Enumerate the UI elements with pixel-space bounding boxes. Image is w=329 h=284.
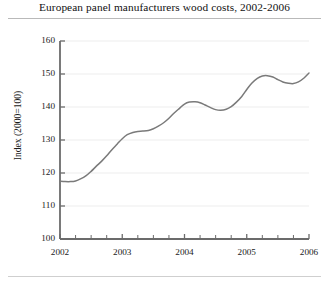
x-tick-label: 2002 — [40, 247, 80, 257]
y-tick-label: 120 — [21, 167, 55, 177]
y-tick-label: 110 — [21, 200, 55, 210]
y-tick-label: 150 — [21, 68, 55, 78]
y-tick-label: 140 — [21, 101, 55, 111]
x-tick-label: 2005 — [227, 247, 267, 257]
data-line-wood-cost-index — [60, 73, 309, 182]
gridlines — [60, 41, 309, 206]
chart-figure: European panel manufacturers wood costs,… — [0, 0, 329, 284]
x-tick-label: 2004 — [165, 247, 205, 257]
y-axis-title: Index (2000=100) — [12, 66, 23, 186]
y-tick-label: 100 — [21, 233, 55, 243]
x-tick-label: 2003 — [102, 247, 142, 257]
y-tick-label: 160 — [21, 35, 55, 45]
x-tick-label: 2006 — [289, 247, 329, 257]
y-tick-label: 130 — [21, 134, 55, 144]
